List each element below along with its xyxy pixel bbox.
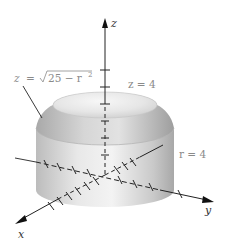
x-axis-arrow-icon — [15, 215, 27, 224]
y-axis-back — [15, 158, 36, 162]
svg-text:25 − r: 25 − r — [48, 72, 83, 84]
z-axis-arrow-icon — [102, 18, 108, 28]
y-axis-arrow-icon — [202, 196, 214, 203]
sphere-equation-label: z = 25 − r 2 — [13, 71, 92, 84]
sphere-label-leader — [23, 86, 42, 118]
solid-region-diagram: z y x z = 25 − r 2 z = 4 r = 4 — [0, 0, 225, 242]
z-axis-label: z — [110, 17, 117, 30]
plane-z4-label: z = 4 — [128, 78, 156, 90]
svg-text:z =: z = — [13, 72, 35, 84]
x-axis-label: x — [18, 228, 25, 241]
y-axis-label: y — [204, 204, 212, 217]
cylinder-r4-label: r = 4 — [179, 148, 206, 160]
svg-text:2: 2 — [88, 71, 92, 79]
